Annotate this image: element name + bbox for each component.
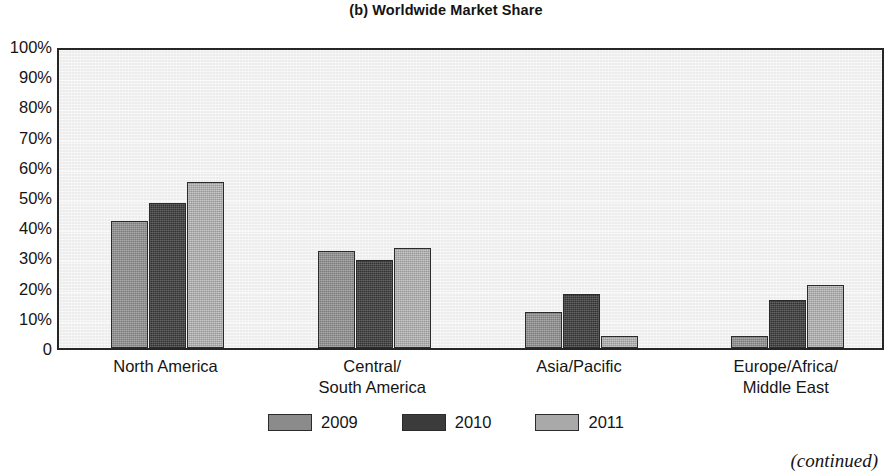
x-axis-category-label: Asia/Pacific bbox=[479, 356, 679, 377]
y-axis-tick-label: 80% bbox=[19, 99, 52, 118]
legend-item-2009[interactable]: 2009 bbox=[268, 413, 358, 432]
x-axis-category-label: Europe/Africa/ Middle East bbox=[686, 356, 886, 398]
bar-2009-2[interactable] bbox=[525, 312, 562, 348]
y-axis: 100%90%80%70%60%50%40%30%20%10%0 bbox=[0, 48, 52, 350]
legend-swatch-icon bbox=[535, 414, 579, 431]
legend-label: 2009 bbox=[321, 413, 358, 432]
y-axis-tick-label: 30% bbox=[19, 250, 52, 269]
legend-item-2010[interactable]: 2010 bbox=[402, 413, 492, 432]
bar-2009-1[interactable] bbox=[318, 251, 355, 348]
chart-legend: 200920102011 bbox=[0, 413, 892, 432]
y-axis-tick-label: 50% bbox=[19, 189, 52, 208]
bar-2011-1[interactable] bbox=[394, 248, 431, 348]
y-axis-tick-label: 0 bbox=[43, 340, 52, 359]
y-axis-tick-label: 20% bbox=[19, 280, 52, 299]
bar-2010-3[interactable] bbox=[769, 300, 806, 348]
y-axis-tick-label: 60% bbox=[19, 159, 52, 178]
continued-note: (continued) bbox=[790, 450, 878, 472]
legend-swatch-icon bbox=[402, 414, 446, 431]
x-axis-category-label: Central/ South America bbox=[272, 356, 472, 398]
y-axis-tick-label: 90% bbox=[19, 68, 52, 87]
chart-title: (b) Worldwide Market Share bbox=[0, 2, 892, 18]
legend-label: 2010 bbox=[455, 413, 492, 432]
x-axis: North AmericaCentral/ South AmericaAsia/… bbox=[57, 356, 884, 408]
bars-layer bbox=[59, 50, 882, 348]
y-axis-tick-label: 70% bbox=[19, 129, 52, 148]
legend-swatch-icon bbox=[268, 414, 312, 431]
y-axis-tick-label: 40% bbox=[19, 219, 52, 238]
legend-label: 2011 bbox=[588, 413, 623, 432]
y-axis-tick-label: 10% bbox=[19, 310, 52, 329]
legend-item-2011[interactable]: 2011 bbox=[535, 413, 623, 432]
bar-2010-0[interactable] bbox=[149, 203, 186, 348]
bar-2010-1[interactable] bbox=[356, 260, 393, 348]
bar-2009-0[interactable] bbox=[111, 221, 148, 348]
y-axis-tick-label: 100% bbox=[10, 38, 52, 57]
bar-2009-3[interactable] bbox=[731, 336, 768, 348]
bar-2011-0[interactable] bbox=[187, 182, 224, 348]
x-axis-category-label: North America bbox=[66, 356, 266, 377]
plot-area bbox=[57, 48, 884, 350]
bar-2011-3[interactable] bbox=[807, 285, 844, 348]
bar-2011-2[interactable] bbox=[601, 336, 638, 348]
bar-2010-2[interactable] bbox=[563, 294, 600, 348]
